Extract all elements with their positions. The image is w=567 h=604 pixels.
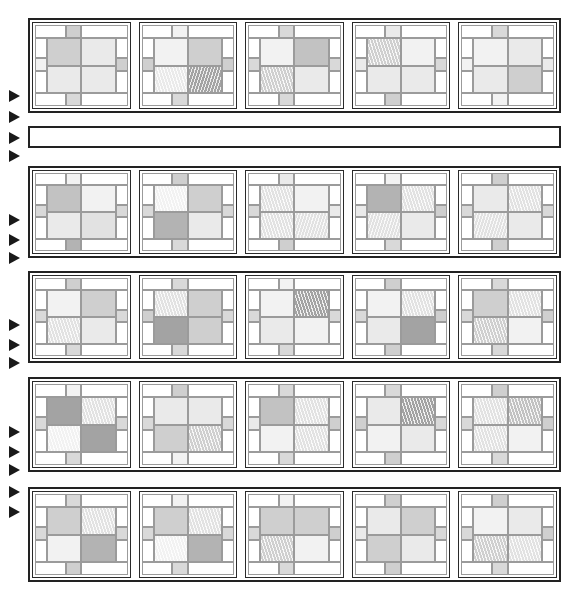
center-patch-2 bbox=[294, 397, 328, 425]
edge-tab-patch bbox=[492, 494, 508, 507]
edge-tab-patch bbox=[66, 173, 82, 185]
quilt-block-cell[interactable] bbox=[139, 170, 238, 254]
side-tab-patch bbox=[116, 310, 128, 323]
side-tab-patch bbox=[116, 205, 128, 218]
side-patch bbox=[35, 507, 47, 527]
center-patch-4 bbox=[508, 425, 542, 453]
right-edge-column bbox=[116, 38, 128, 93]
left-edge-column bbox=[355, 185, 367, 238]
center-patch-2 bbox=[188, 290, 222, 317]
quilt-block-cell[interactable] bbox=[458, 22, 557, 109]
side-patch bbox=[222, 540, 234, 562]
side-patch bbox=[35, 71, 47, 93]
side-patch bbox=[142, 71, 154, 93]
center-four-patch bbox=[473, 185, 542, 238]
side-patch bbox=[329, 71, 341, 93]
side-tab-patch bbox=[329, 310, 341, 323]
sashing-gap bbox=[131, 22, 139, 109]
left-edge-column bbox=[355, 38, 367, 93]
corner-patch bbox=[248, 384, 279, 397]
corner-patch bbox=[294, 494, 340, 507]
center-patch-3 bbox=[47, 66, 81, 94]
quilt-block-cell[interactable] bbox=[245, 22, 344, 109]
quilt-block-cell[interactable] bbox=[32, 275, 131, 359]
middle-row bbox=[355, 185, 448, 238]
quilt-block-cell[interactable] bbox=[32, 170, 131, 254]
quilt-block-cell[interactable] bbox=[352, 275, 451, 359]
center-patch-3 bbox=[154, 317, 188, 344]
left-edge-column bbox=[142, 290, 154, 343]
quilt-block-cell[interactable] bbox=[245, 491, 344, 578]
top-edge-strip bbox=[142, 173, 235, 185]
quilt-block-cell[interactable] bbox=[32, 381, 131, 468]
quilt-block-cell[interactable] bbox=[139, 381, 238, 468]
center-patch-2 bbox=[81, 38, 115, 66]
edge-tab-patch bbox=[492, 93, 508, 106]
middle-row bbox=[248, 290, 341, 343]
arrow-triangle bbox=[9, 252, 20, 264]
corner-patch bbox=[508, 93, 554, 106]
side-patch bbox=[542, 185, 554, 204]
edge-tab-patch bbox=[279, 344, 295, 356]
side-patch bbox=[116, 71, 128, 93]
edge-tab-patch bbox=[172, 452, 188, 465]
quilt-block-cell[interactable] bbox=[458, 381, 557, 468]
center-patch-1 bbox=[473, 290, 507, 317]
quilt-block-cell[interactable] bbox=[139, 275, 238, 359]
quilt-block-cell[interactable] bbox=[245, 381, 344, 468]
bottom-edge-strip bbox=[461, 239, 554, 251]
left-edge-column bbox=[461, 507, 473, 562]
center-four-patch bbox=[367, 507, 436, 562]
quilt-block-cell[interactable] bbox=[245, 275, 344, 359]
side-patch bbox=[461, 71, 473, 93]
block-inner bbox=[35, 173, 128, 251]
side-patch bbox=[35, 322, 47, 343]
side-patch bbox=[142, 397, 154, 417]
quilt-block-cell[interactable] bbox=[139, 491, 238, 578]
side-tab-patch bbox=[461, 527, 473, 540]
center-patch-4 bbox=[294, 425, 328, 453]
corner-patch bbox=[188, 278, 234, 290]
center-patch-4 bbox=[188, 425, 222, 453]
center-patch-3 bbox=[260, 535, 294, 563]
quilt-block-cell[interactable] bbox=[352, 22, 451, 109]
quilt-block-cell[interactable] bbox=[458, 491, 557, 578]
corner-patch bbox=[461, 494, 492, 507]
quilt-block-cell[interactable] bbox=[352, 491, 451, 578]
bottom-edge-strip bbox=[248, 93, 341, 106]
quilt-block-cell[interactable] bbox=[352, 170, 451, 254]
center-patch-4 bbox=[294, 212, 328, 239]
center-four-patch bbox=[473, 397, 542, 452]
center-four-patch bbox=[154, 38, 223, 93]
corner-patch bbox=[35, 25, 66, 38]
middle-row bbox=[35, 38, 128, 93]
corner-patch bbox=[248, 278, 279, 290]
quilt-block-cell[interactable] bbox=[352, 381, 451, 468]
side-tab-patch bbox=[329, 205, 341, 218]
sashing-gap bbox=[450, 491, 458, 578]
quilt-block-cell[interactable] bbox=[458, 275, 557, 359]
top-edge-strip bbox=[355, 173, 448, 185]
sashing-gap bbox=[131, 275, 139, 359]
left-edge-column bbox=[142, 397, 154, 452]
corner-patch bbox=[461, 173, 492, 185]
middle-row bbox=[248, 397, 341, 452]
side-patch bbox=[35, 217, 47, 238]
quilt-block-cell[interactable] bbox=[32, 491, 131, 578]
band-inner bbox=[30, 168, 559, 256]
top-edge-strip bbox=[142, 278, 235, 290]
edge-tab-patch bbox=[279, 173, 295, 185]
quilt-block-cell[interactable] bbox=[139, 22, 238, 109]
arrow-triangle bbox=[9, 506, 20, 518]
direction-arrow-icon bbox=[9, 319, 23, 332]
quilt-block-cell[interactable] bbox=[245, 170, 344, 254]
center-patch-2 bbox=[188, 185, 222, 212]
left-edge-column bbox=[35, 290, 47, 343]
corner-patch bbox=[142, 494, 173, 507]
edge-tab-patch bbox=[66, 562, 82, 575]
sashing-gap bbox=[344, 381, 352, 468]
bottom-edge-strip bbox=[35, 93, 128, 106]
middle-row bbox=[142, 397, 235, 452]
quilt-block-cell[interactable] bbox=[458, 170, 557, 254]
quilt-block-cell[interactable] bbox=[32, 22, 131, 109]
